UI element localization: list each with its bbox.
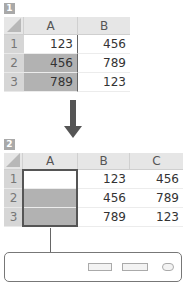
cell-b2[interactable]: 456 (78, 189, 130, 208)
column-header-a[interactable]: A (23, 153, 78, 170)
row-header-3[interactable]: 3 (4, 73, 24, 92)
column-header-b[interactable]: B (78, 17, 130, 35)
cell-a1[interactable]: 123 (24, 35, 78, 54)
cell-c2[interactable]: 789 (130, 189, 183, 208)
select-all-corner[interactable] (4, 17, 24, 35)
cell-a3[interactable]: 789 (24, 73, 78, 92)
cell-b2[interactable]: 789 (78, 54, 130, 73)
column-header-c[interactable]: C (130, 153, 183, 170)
cell-b3[interactable]: 123 (78, 73, 130, 92)
column-header-b[interactable]: B (78, 153, 130, 170)
row-header-1[interactable]: 1 (4, 35, 24, 54)
step-1-badge: 1 (4, 3, 15, 14)
row-header-2[interactable]: 2 (4, 54, 24, 73)
callout-option-2 (122, 263, 148, 271)
row-header-1[interactable]: 1 (4, 170, 23, 189)
callout-option-3 (162, 263, 174, 271)
row-header-2[interactable]: 2 (4, 189, 23, 208)
cell-c1[interactable]: 456 (130, 170, 183, 189)
callout-connector (50, 228, 51, 252)
select-all-corner[interactable] (4, 153, 23, 170)
cell-b1[interactable]: 456 (78, 35, 130, 54)
column-header-a[interactable]: A (24, 17, 78, 35)
cell-a2[interactable]: 456 (24, 54, 78, 73)
callout-option-1 (88, 263, 112, 271)
cell-b1[interactable]: 123 (78, 170, 130, 189)
step-2-badge: 2 (4, 139, 15, 150)
cell-c3[interactable]: 123 (130, 208, 183, 227)
selection-outline (22, 169, 78, 227)
cell-b3[interactable]: 789 (78, 208, 130, 227)
row-header-3[interactable]: 3 (4, 208, 23, 227)
